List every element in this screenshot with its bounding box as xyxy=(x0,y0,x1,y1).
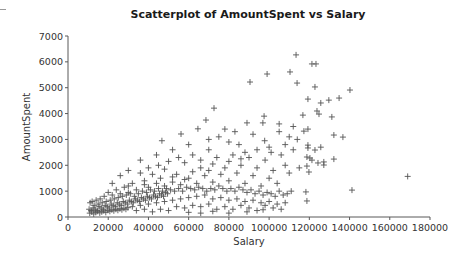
data-point-plus-marker xyxy=(168,187,174,193)
data-point-plus-marker xyxy=(180,188,186,194)
scatter-chart: Scatterplot of AmountSpent vs Salary 010… xyxy=(0,0,468,258)
data-point-plus-marker xyxy=(137,202,143,208)
x-tick-label: 40000 xyxy=(133,222,163,233)
data-point-plus-marker xyxy=(170,174,176,180)
y-tick-label: 3000 xyxy=(39,134,63,145)
data-point-plus-marker xyxy=(159,138,165,144)
data-point-plus-marker xyxy=(326,97,332,103)
data-point-plus-marker xyxy=(305,145,311,151)
data-point-plus-marker xyxy=(174,171,180,177)
data-point-plus-marker xyxy=(282,142,288,148)
data-point-plus-marker xyxy=(242,149,248,155)
data-point-plus-marker xyxy=(139,188,145,194)
data-point-plus-marker xyxy=(312,147,318,153)
data-point-plus-marker xyxy=(149,171,155,177)
data-point-plus-marker xyxy=(266,175,272,181)
data-point-plus-marker xyxy=(238,162,244,168)
data-point-plus-marker xyxy=(162,166,168,172)
data-point-plus-marker xyxy=(220,186,226,192)
x-tick-label: 0 xyxy=(65,222,71,233)
data-point-plus-marker xyxy=(254,165,260,171)
data-point-plus-marker xyxy=(218,195,224,201)
data-point-plus-marker xyxy=(216,183,222,189)
data-point-plus-marker xyxy=(274,201,280,207)
data-point-plus-marker xyxy=(336,95,342,101)
data-point-plus-marker xyxy=(329,114,335,120)
data-point-plus-marker xyxy=(141,206,147,212)
data-point-plus-marker xyxy=(158,175,164,181)
data-point-plus-marker xyxy=(202,173,208,179)
data-point-plus-marker xyxy=(242,180,248,186)
y-tick-label: 4000 xyxy=(39,108,63,119)
y-axis-ticks: 01000200030004000500060007000 xyxy=(39,31,68,223)
data-point-plus-marker xyxy=(232,129,238,135)
data-point-plus-marker xyxy=(206,147,212,153)
data-point-plus-marker xyxy=(296,165,302,171)
data-point-plus-marker xyxy=(272,193,278,199)
data-point-plus-marker xyxy=(287,69,293,75)
data-point-plus-marker xyxy=(246,155,252,161)
data-point-plus-marker xyxy=(315,160,321,166)
data-point-plus-marker xyxy=(129,180,135,186)
data-point-plus-marker xyxy=(188,186,194,192)
data-point-plus-marker xyxy=(206,136,212,142)
x-tick-label: 160000 xyxy=(372,222,408,233)
data-point-plus-marker xyxy=(306,169,312,175)
data-point-plus-marker xyxy=(240,187,246,193)
data-point-plus-marker xyxy=(153,200,159,206)
data-point-plus-marker xyxy=(286,170,292,176)
data-point-plus-marker xyxy=(284,191,290,197)
data-point-plus-marker xyxy=(294,80,300,86)
data-point-plus-marker xyxy=(184,184,190,190)
data-point-plus-marker xyxy=(222,165,228,171)
data-point-plus-marker xyxy=(238,202,244,208)
data-point-plus-marker xyxy=(222,126,228,132)
x-tick-label: 100000 xyxy=(251,222,287,233)
data-point-plus-marker xyxy=(286,134,292,140)
data-point-plus-marker xyxy=(290,124,296,130)
data-point-plus-marker xyxy=(226,178,232,184)
data-point-plus-marker xyxy=(105,189,111,195)
data-point-plus-marker xyxy=(248,187,254,193)
data-point-plus-marker xyxy=(304,198,310,204)
data-point-plus-marker xyxy=(143,189,149,195)
data-point-plus-marker xyxy=(170,147,176,153)
x-axis-label: Salary xyxy=(233,236,264,247)
data-point-plus-marker xyxy=(133,208,139,214)
data-point-plus-marker xyxy=(186,195,192,201)
data-point-plus-marker xyxy=(137,170,143,176)
data-point-plus-marker xyxy=(247,79,253,85)
data-point-plus-marker xyxy=(166,158,172,164)
data-point-plus-marker xyxy=(349,187,355,193)
data-point-plus-marker xyxy=(304,163,310,169)
data-point-plus-marker xyxy=(226,210,232,216)
x-tick-label: 180000 xyxy=(412,222,448,233)
data-point-plus-marker xyxy=(210,196,216,202)
data-point-plus-marker xyxy=(266,198,272,204)
data-point-plus-marker xyxy=(170,197,176,203)
data-point-plus-marker xyxy=(254,147,260,153)
data-point-plus-marker xyxy=(230,206,236,212)
data-point-plus-marker xyxy=(158,206,164,212)
data-point-plus-marker xyxy=(198,157,204,163)
data-point-plus-marker xyxy=(160,188,166,194)
data-point-plus-marker xyxy=(203,117,209,123)
data-point-plus-marker xyxy=(101,193,107,199)
data-point-plus-marker xyxy=(226,197,232,203)
data-point-plus-marker xyxy=(236,184,242,190)
data-point-plus-marker xyxy=(242,198,248,204)
data-point-plus-marker xyxy=(262,138,268,144)
data-point-plus-marker xyxy=(232,188,238,194)
data-point-plus-marker xyxy=(129,204,135,210)
data-point-plus-marker xyxy=(107,197,113,203)
data-point-plus-marker xyxy=(162,198,168,204)
x-axis-ticks: 0200004000060000800001000001200001400001… xyxy=(65,217,448,233)
data-point-plus-marker xyxy=(274,180,280,186)
x-tick-label: 80000 xyxy=(214,222,244,233)
data-point-plus-marker xyxy=(238,156,244,162)
y-tick-label: 5000 xyxy=(39,82,63,93)
data-point-plus-marker xyxy=(182,177,188,183)
data-point-plus-marker xyxy=(258,200,264,206)
y-tick-label: 0 xyxy=(57,212,63,223)
x-tick-label: 60000 xyxy=(174,222,204,233)
